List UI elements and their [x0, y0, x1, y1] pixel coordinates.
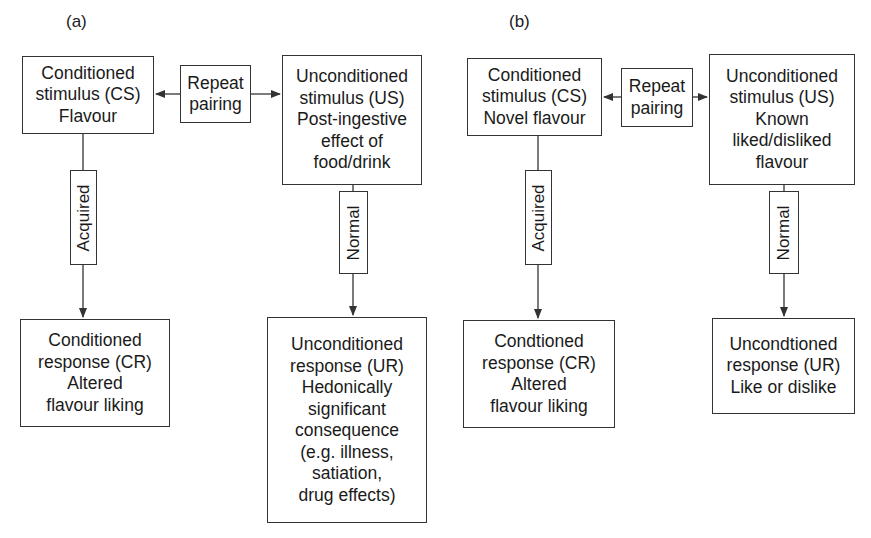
panel-b-unconditioned-stimulus-box: Unconditioned stimulus (US) Known liked/… — [709, 54, 855, 185]
panel-a-normal-label-box: Normal — [339, 191, 368, 274]
panel-a-label: (a) — [66, 12, 87, 32]
panel-b-normal-label-box: Normal — [769, 191, 799, 274]
panel-b-acquired-label-box: Acquired — [525, 170, 552, 265]
panel-a-normal-text: Normal — [344, 205, 364, 260]
panel-a-conditioned-response-box: Conditioned response (CR) Altered flavou… — [20, 319, 170, 427]
panel-a-repeat-pairing-box: Repeat pairing — [180, 65, 251, 123]
panel-b-acquired-text: Acquired — [529, 184, 549, 251]
panel-b-conditioned-stimulus-box: Conditioned stimulus (CS) Novel flavour — [467, 58, 602, 136]
panel-a-conditioned-stimulus-box: Conditioned stimulus (CS) Flavour — [22, 56, 154, 134]
panel-a-acquired-label-box: Acquired — [70, 170, 97, 265]
panel-a-unconditioned-response-box: Unconditioned response (UR) Hedonically … — [267, 317, 427, 523]
panel-a-acquired-text: Acquired — [74, 184, 94, 251]
panel-a-unconditioned-stimulus-box: Unconditioned stimulus (US) Post-ingesti… — [282, 55, 422, 185]
panel-b-normal-text: Normal — [774, 205, 794, 260]
panel-b-repeat-pairing-box: Repeat pairing — [621, 68, 693, 127]
panel-b-label: (b) — [509, 12, 530, 32]
panel-b-conditioned-response-box: Condtioned response (CR) Altered flavour… — [463, 320, 615, 428]
panel-b-unconditioned-response-box: Uncondtioned response (UR) Like or disli… — [712, 318, 855, 414]
